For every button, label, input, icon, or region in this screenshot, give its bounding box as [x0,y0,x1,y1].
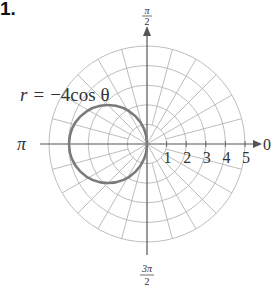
angle-label-pi: π [17,134,27,154]
grid-radial-45 [161,75,216,130]
grid-radial-225 [78,158,133,213]
grid-radial-315 [161,158,216,213]
grid-radial-60 [147,59,196,144]
radial-tick-labels: 12345 [164,141,250,166]
zero-axis-arrow-icon [253,140,262,148]
axes [40,26,262,255]
svg-text:2: 2 [145,16,150,27]
radial-tick-label-1: 1 [164,149,172,166]
radial-tick-label-2: 2 [183,149,191,166]
grid-radial-15 [166,119,242,139]
equation-lhs: r [20,84,28,105]
svg-text:π: π [144,5,150,16]
angle-label-three-half-pi: 3π 2 [140,263,154,287]
radial-tick-label-3: 3 [203,149,211,166]
svg-text:2: 2 [145,276,150,287]
grid-radial-75 [152,49,172,125]
radial-tick-label-4: 4 [222,149,230,166]
radial-tick-label-5: 5 [242,149,250,166]
grid-radial-195 [52,149,128,169]
equation-label: r=−4cos θ [20,84,110,105]
half-pi-axis-arrow-icon [143,26,151,36]
grid-radial-30 [147,95,232,144]
grid-radial-285 [152,163,172,239]
grid-radial-210 [62,144,147,193]
grid-radial-240 [98,144,147,229]
angle-label-zero: 0 [263,136,271,153]
grid-radial-165 [52,119,128,139]
polar-graph: 12345 r=−4cos θ π 0 π 2 3π 2 [0,0,274,290]
svg-text:3π: 3π [141,263,153,274]
angle-label-half-pi: π 2 [142,5,152,27]
equation-rhs: −4cos θ [50,84,109,105]
